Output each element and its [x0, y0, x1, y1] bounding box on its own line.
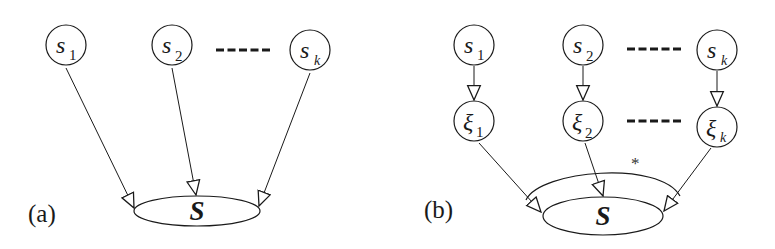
- panel-b-label: (b): [424, 196, 453, 224]
- edge-b-xik-to-s: [664, 148, 711, 211]
- node-b-xi1-sub: 1: [476, 124, 484, 140]
- node-b-xi2-label: ξ: [572, 109, 583, 135]
- node-b-sk-label: s: [707, 37, 716, 63]
- panel-a: s 1 s 2 s k S (a): [28, 25, 330, 228]
- node-b-target: S: [543, 197, 663, 235]
- node-b-xik-sub: k: [720, 130, 727, 145]
- node-a-s1-label: s: [56, 32, 65, 58]
- node-a-s1-sub: 1: [69, 47, 77, 63]
- node-b-sk: s k: [697, 30, 737, 70]
- node-b-s1-label: s: [464, 32, 473, 58]
- node-a-target-label: S: [189, 196, 204, 226]
- edge-b-xi1-to-s: [479, 143, 541, 212]
- edge-a-sk-to-s: [259, 73, 310, 206]
- node-a-sk: s k: [290, 30, 330, 70]
- diagram-canvas: s 1 s 2 s k S (a) s: [0, 0, 775, 249]
- edge-a-s2-to-s: [172, 68, 196, 195]
- node-b-s2-label: s: [573, 32, 582, 58]
- node-a-s1: s 1: [46, 25, 86, 65]
- node-b-xik-label: ξ: [706, 115, 717, 141]
- node-b-s1-sub: 1: [477, 47, 485, 63]
- edge-a-s1-to-s: [66, 68, 134, 208]
- node-b-s1: s 1: [454, 25, 494, 65]
- node-b-sk-sub: k: [721, 53, 728, 68]
- node-b-xi1: ξ 1: [454, 101, 494, 141]
- node-a-target: S: [134, 196, 260, 226]
- node-a-s2-sub: 2: [175, 48, 183, 64]
- edge-b-xi2-to-s: [585, 143, 603, 196]
- node-b-xi2: ξ 2: [563, 101, 603, 141]
- panel-b: s 1 s 2 s k ξ 1 ξ 2: [424, 25, 737, 235]
- arc-marker-star: *: [631, 154, 640, 173]
- node-a-sk-label: s: [300, 37, 309, 63]
- node-b-s2: s 2: [563, 25, 603, 65]
- node-b-xi2-sub: 2: [585, 125, 593, 141]
- node-b-s2-sub: 2: [586, 48, 594, 64]
- node-a-sk-sub: k: [314, 53, 321, 68]
- node-a-s2-label: s: [162, 32, 171, 58]
- node-b-target-label: S: [595, 201, 610, 231]
- node-b-xi1-label: ξ: [463, 109, 474, 135]
- panel-a-label: (a): [28, 200, 56, 228]
- node-a-s2: s 2: [152, 25, 192, 65]
- node-b-xik: ξ k: [697, 107, 737, 147]
